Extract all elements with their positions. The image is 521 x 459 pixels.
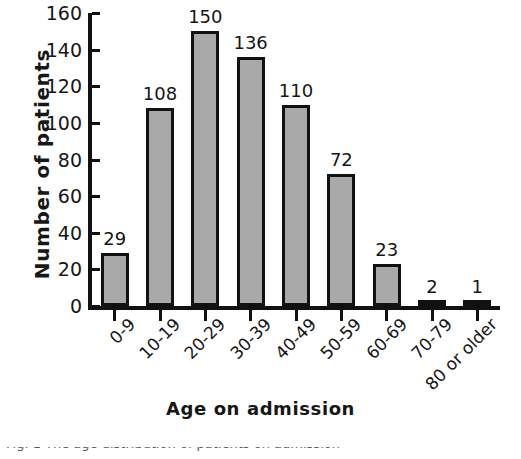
figure-caption: Fig. 1 The age distribution of patients … — [6, 447, 340, 451]
y-axis-tick-label: 20 — [36, 260, 82, 279]
y-axis-tick-label: 120 — [36, 77, 82, 96]
y-axis-tick-label: 0 — [36, 297, 82, 316]
y-axis-tick-label: 100 — [36, 113, 82, 132]
x-axis-title: Age on admission — [0, 398, 521, 419]
y-axis-tick-label: 60 — [36, 187, 82, 206]
bar-value-label: 150 — [171, 8, 239, 26]
bar-chart-figure: Number of patients 020406080100120140160… — [0, 0, 521, 459]
bar-value-label: 1 — [443, 278, 511, 296]
y-axis-tick-label: 140 — [36, 40, 82, 59]
bar-value-label: 29 — [81, 230, 149, 248]
bar-value-label: 136 — [217, 34, 285, 52]
y-axis-tick-label: 80 — [36, 150, 82, 169]
bar-value-label: 108 — [126, 85, 194, 103]
bar-value-labels-group: 29108150136110722321 — [88, 13, 500, 310]
figure-caption-strip: Fig. 1 The age distribution of patients … — [0, 447, 521, 459]
bar-value-label: 72 — [307, 151, 375, 169]
y-axis-tick-label: 40 — [36, 223, 82, 242]
y-axis-tick-label: 160 — [36, 4, 82, 23]
bar-value-label: 110 — [262, 82, 330, 100]
bar-value-label: 23 — [353, 241, 421, 259]
plot-area: 29108150136110722321 — [88, 13, 500, 310]
